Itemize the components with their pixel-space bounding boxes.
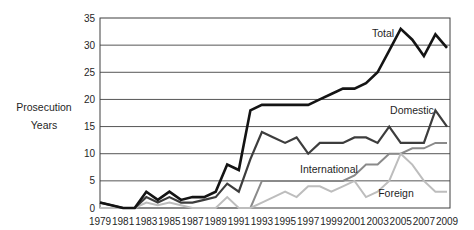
y-tick-20: 20 bbox=[84, 94, 96, 105]
x-tick-1995: 1995 bbox=[274, 216, 297, 227]
series-labels: TotalDomesticInternationalForeign bbox=[300, 27, 434, 199]
y-tick-10: 10 bbox=[84, 148, 96, 159]
y-tick-0: 0 bbox=[89, 203, 95, 214]
x-tick-1999: 1999 bbox=[320, 216, 343, 227]
series-label-total: Total bbox=[372, 27, 394, 39]
y-tick-15: 15 bbox=[84, 121, 96, 132]
x-tick-2003: 2003 bbox=[366, 216, 389, 227]
x-tick-1989: 1989 bbox=[205, 216, 228, 227]
x-tick-1985: 1985 bbox=[158, 216, 181, 227]
x-tick-2007: 2007 bbox=[413, 216, 436, 227]
series-label-foreign: Foreign bbox=[378, 187, 414, 199]
y-axis-title-line-2: Years bbox=[31, 119, 57, 131]
x-tick-1993: 1993 bbox=[251, 216, 274, 227]
y-tick-5: 5 bbox=[89, 175, 95, 186]
x-tick-1981: 1981 bbox=[112, 216, 135, 227]
x-tick-labels: 1979198119831985198719891991199319951997… bbox=[89, 216, 459, 227]
x-tick-2009: 2009 bbox=[436, 216, 459, 227]
prosecution-years-line-chart: TotalDomesticInternationalForeign 051015… bbox=[0, 0, 474, 230]
series-label-international: International bbox=[300, 163, 358, 175]
x-tick-2001: 2001 bbox=[343, 216, 366, 227]
x-tick-1991: 1991 bbox=[228, 216, 251, 227]
x-tick-1983: 1983 bbox=[135, 216, 158, 227]
x-tick-2005: 2005 bbox=[390, 216, 413, 227]
y-tick-labels: 05101520253035 bbox=[84, 13, 96, 214]
x-tick-1987: 1987 bbox=[181, 216, 204, 227]
y-tick-25: 25 bbox=[84, 67, 96, 78]
x-tick-1979: 1979 bbox=[89, 216, 112, 227]
series-label-domestic: Domestic bbox=[390, 104, 434, 116]
x-tick-1997: 1997 bbox=[297, 216, 320, 227]
y-axis-title-line-1: Prosecution bbox=[16, 101, 72, 113]
y-tick-35: 35 bbox=[84, 13, 96, 24]
line-chart-plot: TotalDomesticInternationalForeign 051015… bbox=[0, 0, 474, 230]
y-tick-30: 30 bbox=[84, 40, 96, 51]
